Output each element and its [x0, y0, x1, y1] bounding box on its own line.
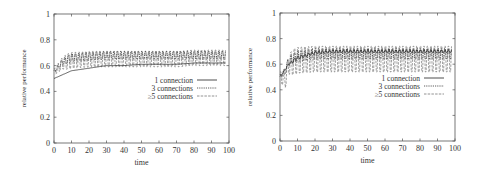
- y-tick-label: 0.2: [40, 113, 50, 122]
- y-tick-label: 0.8: [40, 36, 50, 45]
- x-tick-label: 70: [173, 146, 181, 155]
- legend-label: ≥5 connections: [147, 92, 193, 101]
- x-tick-label: 30: [103, 146, 111, 155]
- x-tick-label: 20: [311, 144, 319, 153]
- x-tick-label: 100: [449, 144, 461, 153]
- x-axis-label: time: [360, 156, 375, 165]
- x-tick-label: 80: [190, 146, 198, 155]
- y-tick-label: 1: [272, 9, 276, 18]
- x-tick-label: 0: [52, 146, 56, 155]
- y-tick-label: 0.2: [266, 111, 276, 120]
- y-axis-label: relative performance: [246, 48, 254, 106]
- y-tick-label: 0: [272, 137, 276, 146]
- series-line-2: [54, 50, 226, 74]
- plot-frame: [54, 14, 229, 143]
- x-tick-label: 10: [68, 146, 76, 155]
- y-tick-label: 0.4: [40, 87, 50, 96]
- y-tick-label: 0.4: [266, 86, 276, 95]
- chart-1: 010203040506070809010000.20.40.60.81time…: [20, 10, 235, 167]
- legend-label: ≥5 connections: [374, 90, 420, 99]
- x-tick-label: 50: [138, 146, 146, 155]
- x-tick-label: 60: [155, 146, 163, 155]
- legend: 1 connection3 connections≥5 connections: [147, 76, 217, 101]
- plot-frame: [280, 13, 455, 141]
- y-tick-label: 1: [46, 10, 50, 19]
- x-tick-label: 90: [208, 146, 216, 155]
- x-tick-label: 90: [434, 144, 442, 153]
- x-tick-label: 30: [329, 144, 337, 153]
- y-tick-label: 0.6: [266, 60, 276, 69]
- x-tick-label: 40: [346, 144, 354, 153]
- x-tick-label: 40: [120, 146, 128, 155]
- x-tick-label: 60: [381, 144, 389, 153]
- x-tick-label: 10: [294, 144, 302, 153]
- figure-canvas: 010203040506070809010000.20.40.60.81time…: [0, 0, 483, 173]
- chart-2: 010203040506070809010000.20.40.60.81time…: [246, 9, 461, 165]
- x-tick-label: 20: [85, 146, 93, 155]
- y-tick-label: 0.8: [266, 35, 276, 44]
- x-tick-label: 70: [399, 144, 407, 153]
- y-axis-label: relative performance: [20, 49, 28, 107]
- y-tick-label: 0: [46, 139, 50, 148]
- x-axis-label: time: [134, 158, 149, 167]
- y-tick-label: 0.6: [40, 62, 50, 71]
- x-tick-label: 100: [223, 146, 235, 155]
- x-tick-label: 0: [278, 144, 282, 153]
- legend: 1 connection3 connections≥5 connections: [374, 74, 444, 99]
- x-tick-label: 80: [416, 144, 424, 153]
- x-tick-label: 50: [364, 144, 372, 153]
